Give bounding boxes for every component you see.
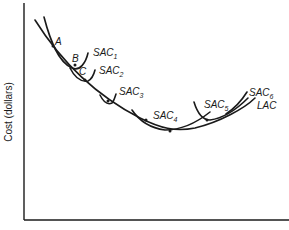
sac4-tangency-dot-b	[169, 130, 172, 133]
lac-curve	[35, 20, 255, 130]
sac3-tangency-dot	[107, 100, 110, 103]
sac6-label: SAC6	[249, 87, 274, 100]
point-a-label: A	[54, 36, 62, 47]
sac4-label: SAC4	[153, 110, 178, 123]
sac5-tangency-dot	[206, 119, 209, 122]
sac2-tangency-dot	[84, 79, 87, 82]
lac-label: LAC	[257, 100, 277, 111]
sac3-label: SAC3	[119, 86, 144, 99]
sac1-label: SAC1	[93, 47, 118, 60]
point-b-label: B	[72, 53, 79, 64]
y-axis-label: Cost (dollars)	[3, 82, 14, 141]
cost-curves-diagram: Cost (dollars) A B C SAC1 SAC2 SAC3 SAC4…	[0, 0, 289, 230]
point-c-label: C	[79, 66, 87, 77]
sac4-tangency-dot-a	[145, 119, 148, 122]
sac2-label: SAC2	[99, 65, 124, 78]
sac5-label: SAC5	[204, 99, 229, 112]
